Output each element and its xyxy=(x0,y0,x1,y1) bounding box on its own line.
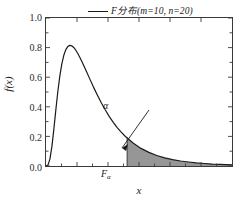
chart-canvas xyxy=(46,18,232,166)
y-axis-label: f(x) xyxy=(2,60,14,108)
chart-figure: 1.0 0.8 0.6 0.4 0.2 0.0 f(x) x F分布(m=10,… xyxy=(0,0,246,200)
y-tick-label-0.0: 0.0 xyxy=(0,163,42,173)
alpha-annotation: α xyxy=(103,101,108,111)
y-tick-label-0.2: 0.2 xyxy=(0,133,42,143)
y-tick-label-0.8: 0.8 xyxy=(0,43,42,53)
critical-value-label: Fα xyxy=(101,169,111,182)
legend-line-swatch xyxy=(88,11,108,12)
y-tick-label-1.0: 1.0 xyxy=(0,13,42,23)
critical-value-subscript: α xyxy=(107,173,111,181)
x-axis-label: x xyxy=(45,184,233,196)
shaded-tail-region xyxy=(127,138,232,166)
legend-label: F分布(m=10, n=20) xyxy=(111,6,193,16)
axis-ticks xyxy=(46,18,232,166)
plot-area xyxy=(45,17,233,167)
legend: F分布(m=10, n=20) xyxy=(86,4,195,18)
